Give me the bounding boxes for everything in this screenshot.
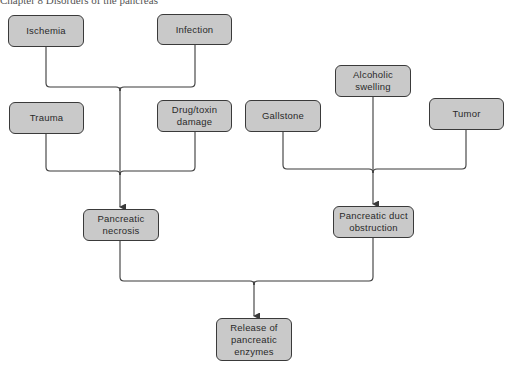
node-infection: Infection	[157, 14, 232, 45]
edge-trauma	[46, 134, 120, 175]
node-alcoholic-swelling: Alcoholic swelling	[335, 65, 411, 97]
edge-necrosis-release	[120, 241, 254, 285]
edge-ischemia	[46, 47, 120, 91]
connector-lines	[0, 0, 508, 365]
node-drug-toxin-damage: Drug/toxin damage	[157, 100, 232, 132]
node-gallstone: Gallstone	[245, 100, 321, 132]
node-release-of-pancreatic-enzymes: Release of pancreatic enzymes	[216, 318, 292, 361]
edge-gallstone	[283, 132, 373, 173]
node-pancreatic-necrosis: Pancreatic necrosis	[83, 209, 159, 241]
edge-drug-toxin	[120, 132, 195, 175]
edge-obstruction-release	[254, 238, 373, 285]
node-trauma: Trauma	[9, 102, 84, 134]
node-ischemia: Ischemia	[8, 15, 84, 47]
edge-tumor	[373, 130, 466, 173]
edge-infection	[120, 45, 195, 91]
node-tumor: Tumor	[429, 98, 504, 130]
node-pancreatic-duct-obstruction: Pancreatic duct obstruction	[333, 206, 414, 238]
